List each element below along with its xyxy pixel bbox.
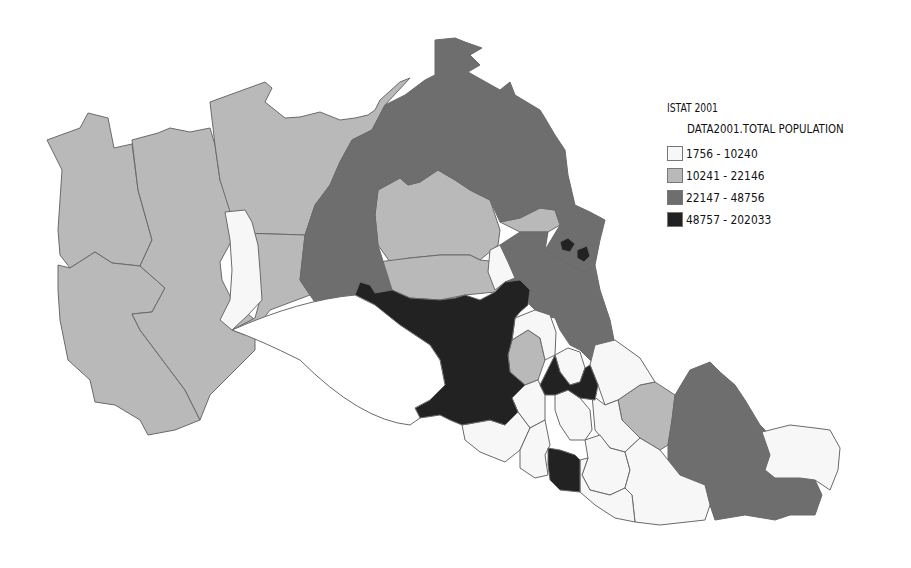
legend-label-2: 10241 - 22146	[686, 168, 764, 183]
region-south-city-3	[548, 448, 580, 492]
legend-label-4: 48757 - 202033	[686, 212, 771, 227]
legend-field-name: DATA2001.TOTAL POPULATION	[687, 121, 844, 136]
legend-swatch-2	[667, 168, 683, 183]
choropleth-map	[0, 0, 911, 568]
legend-title: ISTAT 2001	[667, 100, 840, 115]
legend-class-3: 22147 - 48756	[667, 186, 878, 208]
legend-class-2: 10241 - 22146	[667, 164, 878, 186]
map-legend: ISTAT 2001 DATA2001.TOTAL POPULATION 175…	[667, 100, 878, 230]
legend-swatch-4	[667, 212, 683, 227]
region-west-1	[47, 113, 152, 268]
legend-label-1: 1756 - 10240	[686, 146, 758, 161]
legend-swatch-1	[667, 146, 683, 161]
legend-class-1: 1756 - 10240	[667, 142, 878, 164]
legend-label-3: 22147 - 48756	[686, 190, 764, 205]
legend-class-4: 48757 - 202033	[667, 208, 878, 230]
legend-swatch-3	[667, 190, 683, 205]
